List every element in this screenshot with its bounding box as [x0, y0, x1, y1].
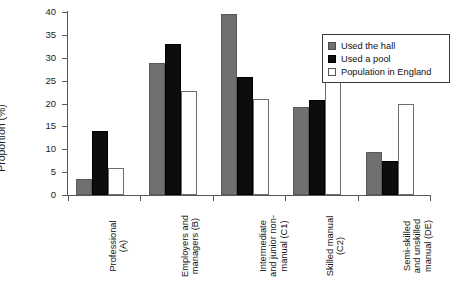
legend-swatch-population-icon — [328, 68, 336, 76]
x-axis-tick — [430, 195, 431, 201]
y-axis-tick-label: 40 — [30, 7, 56, 17]
y-axis-tick — [62, 104, 67, 105]
x-axis-category-label: Professional (A) — [108, 205, 129, 287]
bar-chart: Proportion (%) 0510152025303540 Professi… — [0, 0, 463, 289]
y-axis-tick — [62, 195, 67, 196]
bar — [366, 152, 382, 195]
legend-label-pool: Used a pool — [341, 54, 391, 64]
bar — [165, 44, 181, 195]
bar — [398, 104, 414, 195]
y-axis-tick-label: 25 — [30, 76, 56, 86]
legend-swatch-hall-icon — [328, 42, 336, 50]
x-axis-tick — [285, 195, 286, 201]
x-axis-category-label: Skilled manual (C2) — [325, 205, 346, 287]
bar — [149, 63, 165, 195]
x-axis-category-label: Employers and managers (B) — [180, 205, 201, 287]
y-axis-tick — [62, 172, 67, 173]
y-axis-tick-label: 15 — [30, 121, 56, 131]
legend-item-used-the-hall: Used the hall — [328, 39, 444, 52]
legend-item-population-in-england: Population in England — [328, 65, 444, 78]
y-axis-tick — [62, 58, 67, 59]
y-axis-tick-label: 0 — [30, 190, 56, 200]
y-axis-tick — [62, 12, 67, 13]
bar — [181, 91, 197, 195]
legend-label-hall: Used the hall — [341, 41, 395, 51]
y-axis-tick-label: 5 — [30, 167, 56, 177]
bar — [253, 99, 269, 195]
legend-swatch-pool-icon — [328, 55, 336, 63]
x-axis-category-label: Intermediate and junior non- manual (C1) — [258, 205, 289, 287]
bar — [92, 131, 108, 195]
chart-legend: Used the hall Used a pool Population in … — [322, 34, 450, 83]
bar — [309, 100, 325, 195]
x-axis-tick — [213, 195, 214, 201]
y-axis-tick-label: 30 — [30, 53, 56, 63]
bar — [237, 77, 253, 195]
x-axis-line — [67, 195, 430, 196]
y-axis-tick — [62, 35, 67, 36]
y-axis-tick-label: 20 — [30, 99, 56, 109]
legend-item-used-a-pool: Used a pool — [328, 52, 444, 65]
y-axis-tick — [62, 81, 67, 82]
y-axis-tick-label: 35 — [30, 30, 56, 40]
y-axis-title: Proportion (%) — [0, 0, 7, 78]
bar — [108, 168, 124, 195]
legend-label-population: Population in England — [341, 67, 431, 77]
y-axis-tick — [62, 126, 67, 127]
bar — [382, 161, 398, 195]
bar — [76, 179, 92, 195]
x-axis-tick — [68, 195, 69, 201]
y-axis-tick-label: 10 — [30, 144, 56, 154]
bar — [221, 14, 237, 195]
y-axis-title-text: Proportion (%) — [0, 78, 7, 198]
bar — [293, 107, 309, 195]
x-axis-tick — [140, 195, 141, 201]
x-axis-tick — [358, 195, 359, 201]
x-axis-category-label: Semi-skilled and unskilled manual (DE) — [402, 205, 433, 287]
y-axis-tick — [62, 149, 67, 150]
